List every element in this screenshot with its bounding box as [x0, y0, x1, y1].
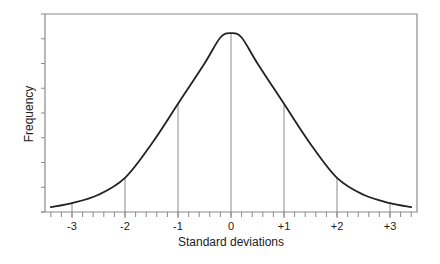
x-tick-label: -1	[173, 220, 183, 232]
x-tick-label: -2	[120, 220, 130, 232]
x-tick-label: +3	[384, 220, 397, 232]
y-axis-label: Frequency	[22, 86, 36, 143]
x-tick-label: +2	[331, 220, 344, 232]
x-tick-label: -3	[67, 220, 77, 232]
x-axis-ticks	[51, 212, 411, 218]
x-tick-label: +1	[278, 220, 291, 232]
plot-frame	[41, 14, 417, 212]
bell-curve-chart: -3-2-10+1+2+3 Standard deviations Freque…	[0, 0, 440, 264]
x-axis-tick-labels: -3-2-10+1+2+3	[67, 220, 396, 232]
standard-deviation-lines	[72, 33, 390, 212]
x-tick-label: 0	[228, 220, 234, 232]
x-axis-label: Standard deviations	[178, 235, 284, 249]
